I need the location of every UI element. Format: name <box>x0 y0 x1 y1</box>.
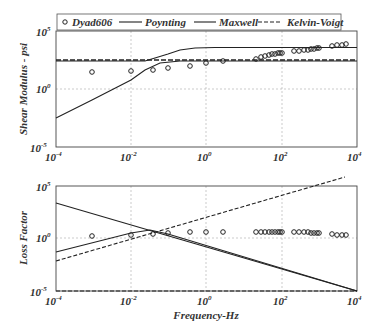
xtick-label: 102 <box>273 294 288 307</box>
dyad606-markers <box>90 42 349 75</box>
ytick-label: 100 <box>36 231 51 244</box>
y-axis-label: Loss Factor <box>17 210 29 266</box>
poynting-line <box>56 61 357 118</box>
ytick-label: 100 <box>36 82 51 95</box>
legend-label-kelvin-voigt: Kelvin-Voigt <box>286 16 344 28</box>
legend: Dyad606 Poynting Maxwell Kelvin-Voigt <box>57 14 344 30</box>
y-axis-label: Shear Modulus - psi <box>17 42 29 135</box>
ytick-label: 105 <box>36 180 51 193</box>
xtick-label: 102 <box>273 150 288 163</box>
xtick-label: 10-4 <box>45 294 62 307</box>
legend-label-poynting: Poynting <box>145 16 186 28</box>
top-plot: 105 100 10-5 10-4 10-2 100 102 104 Shear… <box>17 25 362 163</box>
legend-label-dyad606: Dyad606 <box>71 16 113 28</box>
grid <box>56 186 357 291</box>
x-axis-label: Frequency-Hz <box>172 309 239 321</box>
xtick-label: 10-2 <box>120 150 137 163</box>
plot-frame <box>56 186 357 291</box>
ytick-label: 105 <box>36 25 51 38</box>
chart-figure: Dyad606 Poynting Maxwell Kelvin-Voigt <box>0 0 381 326</box>
xtick-label: 104 <box>347 150 362 163</box>
dyad606-markers <box>90 230 349 239</box>
poynting-line <box>56 230 357 291</box>
xtick-label: 100 <box>197 150 212 163</box>
xtick-label: 100 <box>197 294 212 307</box>
bottom-plot: 105 100 10-5 10-4 10-2 100 102 104 Loss … <box>17 177 362 321</box>
xtick-label: 10-4 <box>45 150 62 163</box>
kelvin-voigt-line <box>56 177 345 261</box>
legend-label-maxwell: Maxwell <box>218 16 259 28</box>
xtick-label: 104 <box>347 294 362 307</box>
xtick-label: 10-2 <box>120 294 137 307</box>
